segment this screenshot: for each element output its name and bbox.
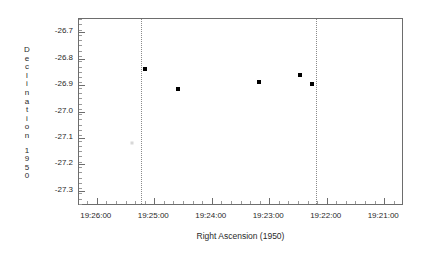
y-tick-major-3 xyxy=(79,112,85,113)
guide-19-22-10 xyxy=(316,19,317,204)
x-tick-minor xyxy=(355,201,356,204)
y-tick-minor xyxy=(79,193,82,194)
y-tick-minor xyxy=(79,141,82,142)
x-tick-label-5: 19:21:00 xyxy=(368,212,399,220)
y-tick-minor xyxy=(79,104,82,105)
y-tick-major-4 xyxy=(79,138,85,139)
y-tick-label-0: -26.7 xyxy=(55,27,73,35)
x-tick-minor xyxy=(336,201,337,204)
x-tick-minor xyxy=(288,201,289,204)
x-axis-tick-labels: 19:26:0019:25:0019:24:0019:23:0019:22:00… xyxy=(78,212,403,224)
x-tick-minor xyxy=(221,201,222,204)
y-tick-minor xyxy=(79,172,82,173)
y-tick-minor xyxy=(79,61,82,62)
y-tick-minor xyxy=(79,93,82,94)
y-tick-minor xyxy=(79,30,82,31)
x-tick-major-5 xyxy=(384,198,385,204)
x-tick-major-3 xyxy=(269,198,270,204)
y-tick-minor xyxy=(79,183,82,184)
y-tick-minor xyxy=(79,51,82,52)
x-tick-major-0 xyxy=(97,198,98,204)
x-tick-minor xyxy=(346,201,347,204)
x-tick-label-3: 19:23:00 xyxy=(253,212,284,220)
x-tick-minor xyxy=(87,201,88,204)
x-tick-minor xyxy=(193,201,194,204)
y-tick-label-5: -27.2 xyxy=(55,159,73,167)
y-tick-minor xyxy=(79,24,82,25)
x-tick-minor xyxy=(173,201,174,204)
x-tick-minor xyxy=(250,201,251,204)
y-tick-minor xyxy=(79,178,82,179)
y-tick-major-6 xyxy=(79,191,85,192)
x-tick-minor xyxy=(231,201,232,204)
x-tick-label-2: 19:24:00 xyxy=(195,212,226,220)
data-point-source-2 xyxy=(176,87,180,91)
x-tick-major-4 xyxy=(327,198,328,204)
y-tick-minor xyxy=(79,151,82,152)
y-tick-major-1 xyxy=(79,59,85,60)
x-tick-minor xyxy=(394,201,395,204)
x-tick-label-1: 19:25:00 xyxy=(138,212,169,220)
y-tick-minor xyxy=(79,204,82,205)
y-tick-minor xyxy=(79,125,82,126)
y-tick-minor xyxy=(79,109,82,110)
y-tick-minor xyxy=(79,45,82,46)
chart-page: Declination1950 -26.7-26.8-26.9-27.0-27.… xyxy=(0,0,428,253)
x-tick-minor xyxy=(202,201,203,204)
data-point-source-6 xyxy=(130,141,133,144)
data-point-source-4 xyxy=(298,73,302,77)
x-tick-minor xyxy=(126,201,127,204)
y-tick-minor xyxy=(79,146,82,147)
y-tick-minor xyxy=(79,56,82,57)
y-tick-minor xyxy=(79,114,82,115)
x-tick-minor xyxy=(298,201,299,204)
x-tick-minor xyxy=(260,201,261,204)
x-tick-label-0: 19:26:00 xyxy=(80,212,111,220)
x-tick-minor xyxy=(241,201,242,204)
y-tick-minor xyxy=(79,130,82,131)
x-tick-major-1 xyxy=(154,198,155,204)
y-tick-minor xyxy=(79,188,82,189)
y-tick-major-0 xyxy=(79,32,85,33)
y-tick-label-2: -26.9 xyxy=(55,80,73,88)
x-tick-minor xyxy=(183,201,184,204)
data-point-source-5 xyxy=(310,82,314,86)
y-tick-minor xyxy=(79,135,82,136)
y-tick-minor xyxy=(79,72,82,73)
x-tick-major-2 xyxy=(212,198,213,204)
x-axis-title: Right Ascension (1950) xyxy=(78,231,403,241)
x-tick-minor xyxy=(164,201,165,204)
x-tick-label-4: 19:22:00 xyxy=(310,212,341,220)
y-tick-minor xyxy=(79,40,82,41)
data-point-source-3 xyxy=(257,80,261,84)
plot-area xyxy=(78,18,403,205)
y-tick-minor xyxy=(79,119,82,120)
y-tick-minor xyxy=(79,67,82,68)
y-tick-major-2 xyxy=(79,85,85,86)
x-tick-minor xyxy=(375,201,376,204)
y-tick-minor xyxy=(79,77,82,78)
x-tick-minor xyxy=(106,201,107,204)
y-tick-minor xyxy=(79,167,82,168)
x-tick-minor xyxy=(135,201,136,204)
y-axis-tick-labels: -26.7-26.8-26.9-27.0-27.1-27.2-27.3 xyxy=(0,18,73,205)
y-tick-label-4: -27.1 xyxy=(55,133,73,141)
guide-19-25-10 xyxy=(141,19,142,204)
x-tick-minor xyxy=(116,201,117,204)
y-tick-label-1: -26.8 xyxy=(55,54,73,62)
y-tick-minor xyxy=(79,35,82,36)
y-tick-minor xyxy=(79,199,82,200)
y-tick-minor xyxy=(79,156,82,157)
x-tick-minor xyxy=(365,201,366,204)
y-tick-minor xyxy=(79,88,82,89)
x-tick-minor xyxy=(279,201,280,204)
y-tick-major-5 xyxy=(79,164,85,165)
x-tick-minor xyxy=(308,201,309,204)
data-point-source-1 xyxy=(143,67,147,71)
y-tick-minor xyxy=(79,162,82,163)
y-tick-minor xyxy=(79,98,82,99)
y-tick-minor xyxy=(79,82,82,83)
y-tick-label-6: -27.3 xyxy=(55,186,73,194)
x-tick-minor xyxy=(145,201,146,204)
y-tick-label-3: -27.0 xyxy=(55,107,73,115)
